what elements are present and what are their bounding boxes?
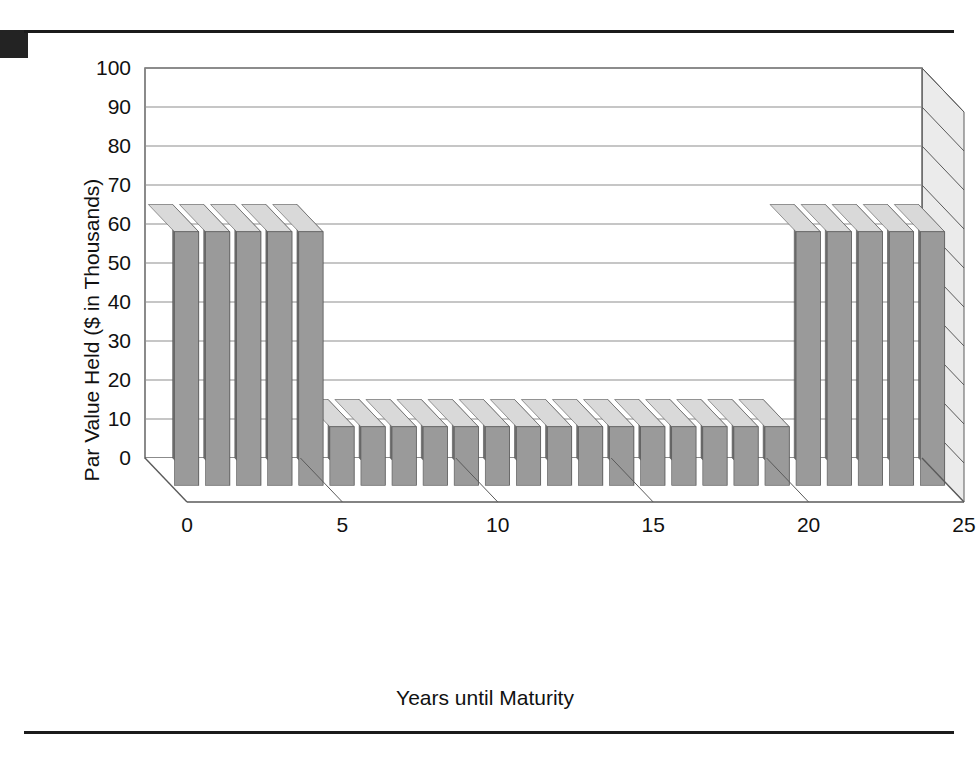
y-tick-label: 80 (67, 135, 131, 156)
y-tick-label: 70 (67, 174, 131, 195)
x-tick-label: 25 (934, 514, 980, 535)
y-tick-label: 20 (67, 369, 131, 390)
y-tick-label: 90 (67, 96, 131, 117)
x-tick-label: 10 (468, 514, 528, 535)
y-tick-label: 10 (67, 408, 131, 429)
x-tick-label: 20 (779, 514, 839, 535)
x-tick-label: 5 (312, 514, 372, 535)
y-tick-label: 100 (67, 57, 131, 78)
x-tick-label: 0 (157, 514, 217, 535)
y-tick-label: 50 (67, 252, 131, 273)
y-tick-label: 60 (67, 213, 131, 234)
x-tick-label: 15 (623, 514, 683, 535)
x-axis-title: Years until Maturity (0, 686, 970, 710)
y-tick-label: 0 (67, 447, 131, 468)
y-tick-label: 40 (67, 291, 131, 312)
y-tick-label: 30 (67, 330, 131, 351)
